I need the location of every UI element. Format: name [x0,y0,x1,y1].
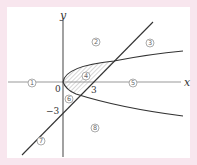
region-4-marker: 4 [82,72,90,80]
svg-text:6: 6 [67,95,71,103]
x-intercept-label: 3 [91,85,97,95]
region-5-marker: 5 [129,79,137,87]
y-intercept-label: −3 [46,106,60,116]
x-axis-label: x [184,76,191,89]
line-y-equals-x-minus-3 [22,22,153,155]
origin-label: 0 [55,84,61,94]
region-1-marker: 1 [28,79,36,87]
svg-text:2: 2 [94,38,98,46]
diagram-svg: y x 0 3 −3 1 2 3 4 5 6 7 8 [0,0,197,165]
region-6-marker: 6 [65,95,73,103]
svg-text:1: 1 [30,79,34,87]
region-7-marker: 7 [37,137,45,145]
y-axis-label: y [59,9,67,22]
svg-text:4: 4 [84,72,88,80]
region-3-marker: 3 [146,39,154,47]
svg-text:3: 3 [148,39,152,47]
svg-text:7: 7 [39,137,43,145]
region-2-marker: 2 [92,38,100,46]
region-8-marker: 8 [91,124,99,132]
svg-text:5: 5 [131,79,135,87]
svg-text:8: 8 [93,124,97,132]
